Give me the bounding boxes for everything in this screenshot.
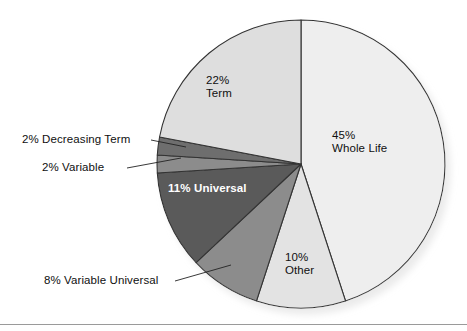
label-whole-life-percent: 45% [332, 129, 387, 142]
label-other: 10% Other [285, 251, 314, 277]
label-variable-universal: 8% Variable Universal [44, 274, 158, 287]
label-universal: 11% Universal [168, 182, 247, 195]
label-variable: 2% Variable [42, 161, 104, 174]
label-term-name: Term [206, 87, 232, 100]
label-other-percent: 10% [285, 251, 314, 264]
label-whole-life: 45% Whole Life [332, 129, 387, 155]
label-term-percent: 22% [206, 74, 232, 87]
bottom-divider [0, 324, 467, 325]
pie-chart-figure: 22% Term 45% Whole Life 10% Other 11% Un… [0, 0, 467, 331]
label-term: 22% Term [206, 74, 232, 100]
label-other-name: Other [285, 264, 314, 277]
label-whole-life-name: Whole Life [332, 142, 387, 155]
label-decreasing-term: 2% Decreasing Term [22, 133, 130, 146]
